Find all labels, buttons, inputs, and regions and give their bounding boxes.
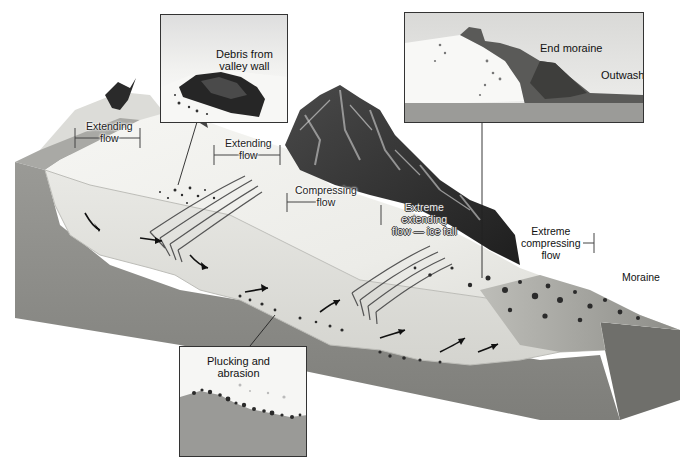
- label-line: Debris from: [216, 48, 273, 60]
- inset-debris-title: Debris from valley wall: [216, 48, 273, 72]
- label-moraine: Moraine: [622, 271, 660, 283]
- inset-debris-from-valley-wall: Debris from valley wall: [160, 14, 288, 123]
- label-line: Compressing: [295, 184, 357, 196]
- inset-end-moraine-outwash: End moraine Outwash: [404, 12, 644, 123]
- label-line: Extreme: [392, 201, 457, 213]
- label-line: flow: [521, 249, 581, 261]
- label-compressing-flow: Compressing flow: [295, 184, 357, 208]
- label-line: flow: [295, 196, 357, 208]
- label-line: Extending: [225, 137, 272, 149]
- label-line: Plucking and: [207, 355, 270, 367]
- label-line: compressing: [521, 237, 581, 249]
- label-line: flow: [225, 149, 272, 161]
- label-line: abrasion: [207, 367, 270, 379]
- label-line: flow: [86, 132, 133, 144]
- label-line: extending: [392, 213, 457, 225]
- label-line: valley wall: [216, 60, 273, 72]
- outwash-plain: [405, 103, 644, 123]
- label-line: flow — ice fall: [392, 225, 457, 237]
- label-extreme-compressing-flow: Extreme compressing flow: [521, 225, 581, 261]
- inset-plucking-title: Plucking and abrasion: [207, 355, 270, 379]
- label-end-moraine: End moraine: [540, 42, 602, 54]
- label-outwash: Outwash: [601, 69, 644, 81]
- label-extending-flow-upper: Extending flow: [86, 120, 133, 144]
- label-line: Extending: [86, 120, 133, 132]
- label-extreme-extending-flow-ice-fall: Extreme extending flow — ice fall: [392, 201, 457, 237]
- inset-plucking-and-abrasion: Plucking and abrasion: [179, 346, 307, 457]
- glacier-diagram: Extending flow Extending flow Compressin…: [0, 0, 686, 466]
- label-extending-flow-lower: Extending flow: [225, 137, 272, 161]
- label-line: Extreme: [521, 225, 581, 237]
